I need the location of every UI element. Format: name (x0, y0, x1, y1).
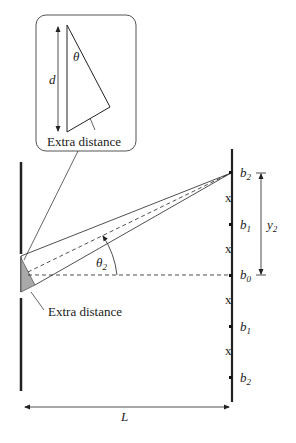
d-label: d (49, 72, 56, 87)
theta-label: θ (73, 49, 80, 64)
ray-lower (35, 173, 231, 285)
fringe-label-b2-bottom: b2 (240, 370, 252, 387)
L-label: L (120, 409, 128, 424)
inset-connector (24, 151, 78, 260)
ray-upper (21, 173, 231, 256)
fringe-label-b0: b0 (240, 267, 252, 284)
minimum-mark: x (225, 343, 232, 358)
inset-box: d θ Extra distance (36, 15, 136, 151)
y2-dimension (256, 173, 266, 275)
fringe-label-b2-top: b2 (240, 165, 252, 182)
y2-label: y2 (265, 217, 278, 234)
minimum-mark: x (225, 241, 232, 256)
minimum-mark: x (225, 190, 232, 205)
ray-center (28, 173, 231, 272)
theta2-label: θ2 (96, 255, 107, 272)
extra-distance-label: Extra distance (48, 304, 122, 319)
extra-distance-pointer (31, 292, 44, 310)
double-slit-diagram: d θ Extra distance θ2 Extra distance b2 … (0, 0, 296, 443)
inset-extra-distance-label: Extra distance (47, 134, 121, 149)
minimum-mark: x (225, 292, 232, 307)
fringe-label-b1-top: b1 (240, 217, 251, 234)
fringe-label-b1-bottom: b1 (240, 319, 251, 336)
